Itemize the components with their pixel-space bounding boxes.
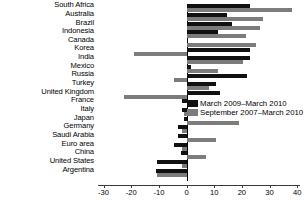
category-label: Germany	[63, 122, 94, 130]
bar-dark	[187, 74, 248, 78]
bar-gray	[187, 138, 216, 142]
category-label: Australia	[65, 10, 94, 18]
bar-dark	[187, 91, 220, 95]
legend-item-september-2007: September 2007–March 2010	[187, 108, 303, 117]
bar-gray	[174, 78, 186, 82]
x-axis-tick-label: 10	[210, 189, 218, 197]
bar-gray	[124, 95, 186, 99]
bar-gray	[157, 173, 186, 177]
category-label: Canada	[68, 36, 94, 44]
category-label: Japan	[74, 114, 94, 122]
category-label: China	[75, 148, 94, 156]
category-label: United States	[50, 157, 94, 165]
category-axis-labels: South AfricaAustraliaBrazilIndonesiaCana…	[0, 0, 98, 181]
category-label: Euro area	[62, 140, 94, 148]
x-axis-tick-label: -20	[126, 189, 137, 197]
category-label: Italy	[81, 105, 94, 113]
bar-gray	[182, 147, 186, 151]
x-axis-tick-label: -30	[98, 189, 109, 197]
category-label: France	[71, 96, 94, 104]
x-axis-tick-label: 0	[184, 189, 188, 197]
category-label: Mexico	[71, 62, 94, 70]
legend-swatch-icon-dark	[187, 100, 198, 107]
bar-gray	[187, 17, 263, 21]
bar-gray	[187, 8, 292, 12]
category-label: United Kingdom	[41, 88, 94, 96]
category-label: South Africa	[54, 1, 94, 9]
bar-chart: South AfricaAustraliaBrazilIndonesiaCana…	[0, 0, 306, 202]
x-axis-tick-label: 40	[293, 189, 301, 197]
legend-swatch-icon-gray	[187, 109, 198, 116]
bar-gray	[182, 129, 186, 133]
legend-label: March 2009–March 2010	[200, 99, 287, 108]
bar-dark	[187, 48, 251, 52]
bar-gray	[187, 43, 256, 47]
bar-gray	[187, 86, 209, 90]
category-label: Russia	[71, 70, 94, 78]
category-label: Turkey	[72, 79, 94, 87]
legend-label: September 2007–March 2010	[200, 108, 303, 117]
bar-dark	[178, 134, 186, 138]
category-label: Brazil	[76, 19, 94, 27]
category-label: Indonesia	[62, 27, 94, 35]
legend-item-march-2009: March 2009–March 2010	[187, 99, 303, 108]
x-axis-tick-label: 30	[265, 189, 273, 197]
bar-gray	[187, 69, 219, 73]
bar-gray	[187, 60, 244, 64]
category-label: Korea	[74, 44, 94, 52]
plot-area	[98, 4, 300, 181]
x-axis-tick-label: -10	[153, 189, 164, 197]
bar-gray	[187, 155, 206, 159]
category-label: Saudi Arabia	[52, 131, 94, 139]
bar-gray	[187, 34, 246, 38]
category-label: Argentina	[62, 166, 94, 174]
bar-gray	[182, 164, 186, 168]
bar-gray	[187, 121, 240, 125]
x-axis-tick-label: 20	[238, 189, 246, 197]
category-label: India	[78, 53, 94, 61]
chart-legend: March 2009–March 2010 September 2007–Mar…	[187, 99, 303, 117]
bar-gray	[187, 26, 260, 30]
bar-gray	[134, 52, 187, 56]
